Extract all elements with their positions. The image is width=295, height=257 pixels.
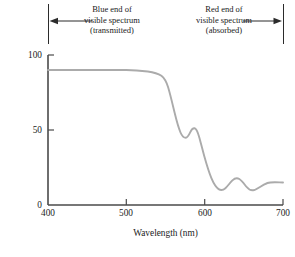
transmittance-curve	[48, 70, 283, 190]
chart-figure: Blue end of visible spectrum (transmitte…	[0, 0, 295, 257]
x-axis-ticks	[126, 199, 283, 205]
axis-spines	[48, 55, 283, 205]
plot-area	[0, 0, 295, 257]
y-axis-ticks	[48, 55, 54, 130]
